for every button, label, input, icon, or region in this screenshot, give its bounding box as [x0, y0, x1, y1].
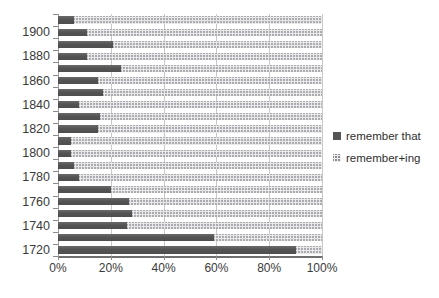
bar-segment-remember-ing — [296, 246, 322, 253]
bar-row — [58, 16, 322, 23]
bar-segment-remember-that — [58, 162, 74, 169]
y-axis-tick — [53, 87, 58, 88]
y-axis-tick — [53, 111, 58, 112]
x-axis-tick — [111, 256, 112, 260]
x-axis-tick — [164, 256, 165, 260]
bar-row — [58, 53, 322, 60]
x-axis-tick — [322, 256, 323, 260]
x-axis-tick — [269, 256, 270, 260]
bar-segment-remember-ing — [111, 186, 322, 193]
y-axis-tick-label: 1880 — [22, 50, 50, 63]
chart-legend: remember that remember+ing — [333, 127, 437, 171]
y-axis-tick — [53, 123, 58, 124]
bar-segment-remember-that — [58, 246, 296, 253]
gridline — [269, 14, 270, 256]
y-axis-tick — [53, 38, 58, 39]
bar-segment-remember-ing — [129, 198, 322, 205]
plot-frame — [58, 14, 322, 256]
bar-segment-remember-that — [58, 234, 214, 241]
legend-label: remember+ing — [346, 152, 420, 164]
bar-row — [58, 77, 322, 84]
bar-segment-remember-that — [58, 16, 74, 23]
bar-segment-remember-that — [58, 41, 113, 48]
bar-segment-remember-ing — [74, 162, 322, 169]
gridline — [111, 14, 112, 256]
bar-segment-remember-that — [58, 186, 111, 193]
bar-segment-remember-that — [58, 53, 87, 60]
bar-row — [58, 174, 322, 181]
bar-row — [58, 29, 322, 36]
y-axis-tick — [53, 50, 58, 51]
y-axis-tick — [53, 171, 58, 172]
y-axis-tick — [53, 244, 58, 245]
gridline — [216, 14, 217, 256]
bar-segment-remember-that — [58, 210, 132, 217]
gridline — [322, 14, 323, 256]
bar-segment-remember-that — [58, 65, 121, 72]
bar-segment-remember-ing — [98, 125, 322, 132]
bar-segment-remember-ing — [87, 53, 322, 60]
bar-segment-remember-that — [58, 222, 127, 229]
x-axis-tick — [58, 256, 59, 260]
y-axis-tick — [53, 14, 58, 15]
y-axis-tick-label: 1860 — [22, 75, 50, 88]
y-axis-tick — [53, 256, 58, 257]
y-axis-tick — [53, 220, 58, 221]
y-axis-tick — [53, 135, 58, 136]
bar-row — [58, 125, 322, 132]
bar-segment-remember-ing — [79, 101, 322, 108]
y-axis-tick — [53, 232, 58, 233]
x-axis-tick-label: 80% — [257, 261, 281, 275]
y-axis-tick — [53, 62, 58, 63]
x-axis-tick-label: 0% — [49, 261, 66, 275]
bar-row — [58, 89, 322, 96]
bar-segment-remember-ing — [100, 113, 322, 120]
bar-row — [58, 210, 322, 217]
stacked-bar-chart: 1900188018601840182018001780176017401720… — [0, 0, 439, 298]
bar-segment-remember-that — [58, 174, 79, 181]
bar-segment-remember-ing — [74, 16, 322, 23]
y-axis-labels: 1900188018601840182018001780176017401720 — [0, 0, 50, 298]
y-axis-tick — [53, 75, 58, 76]
bar-segment-remember-ing — [214, 234, 322, 241]
bar-segment-remember-that — [58, 77, 98, 84]
bar-row — [58, 113, 322, 120]
bar-row — [58, 162, 322, 169]
bar-segment-remember-that — [58, 198, 129, 205]
y-axis-tick-label: 1780 — [22, 171, 50, 184]
x-axis-tick-label: 100% — [307, 261, 338, 275]
y-axis-tick-label: 1900 — [22, 26, 50, 39]
gridline — [164, 14, 165, 256]
bar-segment-remember-ing — [132, 210, 322, 217]
bar-segment-remember-ing — [121, 65, 322, 72]
bar-row — [58, 101, 322, 108]
bar-segment-remember-that — [58, 125, 98, 132]
y-axis-tick — [53, 147, 58, 148]
y-axis-tick — [53, 196, 58, 197]
x-axis-tick — [216, 256, 217, 260]
bar-row — [58, 234, 322, 241]
bar-row — [58, 246, 322, 253]
legend-item-remember-ing: remember+ing — [333, 149, 437, 167]
bar-segment-remember-that — [58, 101, 79, 108]
bar-segment-remember-ing — [71, 150, 322, 157]
legend-item-remember-that: remember that — [333, 127, 437, 145]
legend-swatch-solid-icon — [333, 132, 341, 140]
bar-segment-remember-that — [58, 113, 100, 120]
y-axis-tick — [53, 183, 58, 184]
bar-row — [58, 41, 322, 48]
y-axis-tick — [53, 26, 58, 27]
bar-row — [58, 150, 322, 157]
x-axis-tick-label: 20% — [99, 261, 123, 275]
bar-row — [58, 186, 322, 193]
y-axis-tick — [53, 99, 58, 100]
bar-row — [58, 65, 322, 72]
bar-segment-remember-ing — [113, 41, 322, 48]
bar-segment-remember-ing — [79, 174, 322, 181]
x-axis-tick-label: 40% — [152, 261, 176, 275]
y-axis-tick-label: 1840 — [22, 99, 50, 112]
bar-segment-remember-ing — [103, 89, 322, 96]
y-axis-tick-label: 1800 — [22, 147, 50, 160]
y-axis-tick — [53, 208, 58, 209]
bar-segment-remember-that — [58, 29, 87, 36]
